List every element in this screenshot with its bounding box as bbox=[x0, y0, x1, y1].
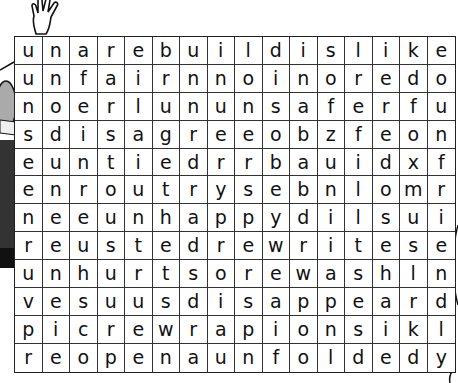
grid-cell[interactable]: b bbox=[290, 176, 318, 204]
grid-cell[interactable]: u bbox=[70, 232, 98, 260]
grid-cell[interactable]: g bbox=[153, 121, 181, 149]
grid-cell[interactable]: n bbox=[15, 93, 43, 121]
grid-cell[interactable]: f bbox=[345, 121, 373, 149]
grid-cell[interactable]: d bbox=[43, 121, 71, 149]
grid-cell[interactable]: n bbox=[180, 93, 208, 121]
grid-cell[interactable]: d bbox=[180, 288, 208, 316]
grid-cell[interactable]: t bbox=[345, 232, 373, 260]
grid-cell[interactable]: n bbox=[235, 93, 263, 121]
grid-cell[interactable]: n bbox=[208, 65, 236, 93]
grid-cell[interactable]: e bbox=[125, 344, 153, 372]
grid-cell[interactable]: a bbox=[373, 288, 401, 316]
grid-cell[interactable]: e bbox=[208, 121, 236, 149]
grid-cell[interactable]: e bbox=[125, 316, 153, 344]
grid-cell[interactable]: o bbox=[428, 65, 456, 93]
grid-cell[interactable]: u bbox=[180, 37, 208, 65]
grid-cell[interactable]: n bbox=[43, 37, 71, 65]
grid-cell[interactable]: u bbox=[208, 344, 236, 372]
grid-cell[interactable]: t bbox=[125, 232, 153, 260]
grid-cell[interactable]: r bbox=[235, 149, 263, 177]
grid-cell[interactable]: f bbox=[70, 65, 98, 93]
grid-cell[interactable]: l bbox=[318, 344, 346, 372]
grid-cell[interactable]: s bbox=[98, 121, 126, 149]
grid-cell[interactable]: y bbox=[208, 176, 236, 204]
grid-cell[interactable]: l bbox=[428, 316, 456, 344]
grid-cell[interactable]: m bbox=[400, 176, 428, 204]
grid-cell[interactable]: l bbox=[400, 260, 428, 288]
grid-cell[interactable]: w bbox=[290, 260, 318, 288]
grid-cell[interactable]: n bbox=[43, 65, 71, 93]
grid-cell[interactable]: b bbox=[263, 149, 291, 177]
grid-cell[interactable]: u bbox=[43, 149, 71, 177]
grid-cell[interactable]: s bbox=[70, 288, 98, 316]
grid-cell[interactable]: d bbox=[180, 232, 208, 260]
grid-cell[interactable]: d bbox=[373, 149, 401, 177]
grid-cell[interactable]: i bbox=[345, 149, 373, 177]
grid-cell[interactable]: e bbox=[43, 288, 71, 316]
grid-cell[interactable]: p bbox=[98, 344, 126, 372]
grid-cell[interactable]: a bbox=[180, 344, 208, 372]
grid-cell[interactable]: a bbox=[263, 288, 291, 316]
grid-cell[interactable]: r bbox=[180, 316, 208, 344]
grid-cell[interactable]: r bbox=[373, 93, 401, 121]
grid-cell[interactable]: n bbox=[235, 344, 263, 372]
grid-cell[interactable]: c bbox=[70, 316, 98, 344]
grid-cell[interactable]: i bbox=[208, 288, 236, 316]
grid-cell[interactable]: r bbox=[70, 176, 98, 204]
grid-cell[interactable]: r bbox=[345, 65, 373, 93]
grid-cell[interactable]: i bbox=[263, 65, 291, 93]
grid-cell[interactable]: e bbox=[153, 149, 181, 177]
grid-cell[interactable]: n bbox=[318, 176, 346, 204]
grid-cell[interactable]: d bbox=[263, 37, 291, 65]
grid-cell[interactable]: r bbox=[208, 149, 236, 177]
grid-cell[interactable]: e bbox=[373, 344, 401, 372]
grid-cell[interactable]: n bbox=[15, 204, 43, 232]
grid-cell[interactable]: v bbox=[15, 288, 43, 316]
grid-cell[interactable]: l bbox=[235, 37, 263, 65]
grid-cell[interactable]: n bbox=[43, 176, 71, 204]
grid-cell[interactable]: p bbox=[15, 316, 43, 344]
grid-cell[interactable]: d bbox=[345, 344, 373, 372]
grid-cell[interactable]: z bbox=[318, 121, 346, 149]
grid-cell[interactable]: u bbox=[15, 37, 43, 65]
grid-cell[interactable]: u bbox=[125, 176, 153, 204]
grid-cell[interactable]: s bbox=[263, 93, 291, 121]
grid-cell[interactable]: e bbox=[263, 260, 291, 288]
grid-cell[interactable]: i bbox=[373, 37, 401, 65]
grid-cell[interactable]: d bbox=[400, 344, 428, 372]
grid-cell[interactable]: x bbox=[400, 149, 428, 177]
grid-cell[interactable]: i bbox=[318, 232, 346, 260]
grid-cell[interactable]: i bbox=[125, 65, 153, 93]
grid-cell[interactable]: s bbox=[345, 260, 373, 288]
grid-cell[interactable]: e bbox=[345, 93, 373, 121]
grid-cell[interactable]: n bbox=[428, 121, 456, 149]
grid-cell[interactable]: d bbox=[428, 288, 456, 316]
grid-cell[interactable]: w bbox=[263, 232, 291, 260]
grid-cell[interactable]: d bbox=[180, 149, 208, 177]
grid-cell[interactable]: b bbox=[153, 37, 181, 65]
grid-cell[interactable]: i bbox=[43, 316, 71, 344]
grid-cell[interactable]: u bbox=[98, 288, 126, 316]
grid-cell[interactable]: i bbox=[263, 316, 291, 344]
grid-cell[interactable]: p bbox=[318, 288, 346, 316]
grid-cell[interactable]: e bbox=[235, 121, 263, 149]
grid-cell[interactable]: p bbox=[208, 204, 236, 232]
grid-cell[interactable]: e bbox=[43, 204, 71, 232]
grid-cell[interactable]: r bbox=[428, 176, 456, 204]
grid-cell[interactable]: e bbox=[428, 232, 456, 260]
grid-cell[interactable]: i bbox=[373, 316, 401, 344]
grid-cell[interactable]: t bbox=[98, 149, 126, 177]
grid-cell[interactable]: u bbox=[15, 65, 43, 93]
grid-cell[interactable]: i bbox=[428, 204, 456, 232]
grid-cell[interactable]: o bbox=[263, 121, 291, 149]
grid-cell[interactable]: n bbox=[125, 204, 153, 232]
grid-cell[interactable]: a bbox=[318, 260, 346, 288]
grid-cell[interactable]: p bbox=[235, 316, 263, 344]
grid-cell[interactable]: h bbox=[70, 260, 98, 288]
grid-cell[interactable]: r bbox=[235, 260, 263, 288]
grid-cell[interactable]: l bbox=[345, 37, 373, 65]
grid-cell[interactable]: n bbox=[428, 260, 456, 288]
grid-cell[interactable]: i bbox=[70, 121, 98, 149]
grid-cell[interactable]: s bbox=[373, 204, 401, 232]
grid-cell[interactable]: l bbox=[345, 204, 373, 232]
